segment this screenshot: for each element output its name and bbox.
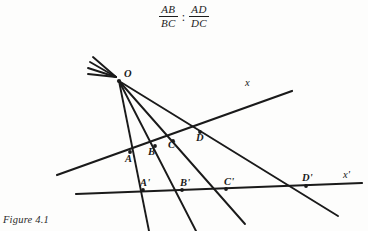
- figure-caption: Figure 4.1: [3, 214, 49, 226]
- projective-geometry-diagram: O A B C D A' B' C' D' x x': [0, 0, 368, 231]
- label-point-C-prime: C': [224, 177, 234, 188]
- label-point-B: B: [148, 147, 155, 158]
- label-axis-x: x: [245, 78, 250, 89]
- diagram-canvas: [0, 0, 368, 231]
- point-O: [117, 79, 121, 83]
- label-point-C: C: [168, 140, 175, 151]
- point-B-prime: [180, 188, 184, 192]
- point-C-prime: [224, 187, 228, 191]
- point-D-prime: [304, 184, 308, 188]
- transversal-line-x-prime: [76, 183, 362, 194]
- label-point-D: D: [196, 133, 204, 144]
- transversal-line-x: [57, 91, 292, 175]
- label-axis-x-prime: x': [343, 170, 350, 181]
- label-point-A: A: [125, 154, 132, 165]
- label-point-B-prime: B': [180, 178, 190, 189]
- label-point-D-prime: D': [302, 173, 313, 184]
- ray-O-A-Aprime: [119, 81, 149, 231]
- label-point-A-prime: A': [140, 178, 150, 189]
- figure-page: AB BC : AD DC: [0, 0, 368, 231]
- point-A-prime: [141, 188, 145, 192]
- ray-stub-group: [88, 57, 116, 77]
- label-point-O: O: [124, 69, 132, 80]
